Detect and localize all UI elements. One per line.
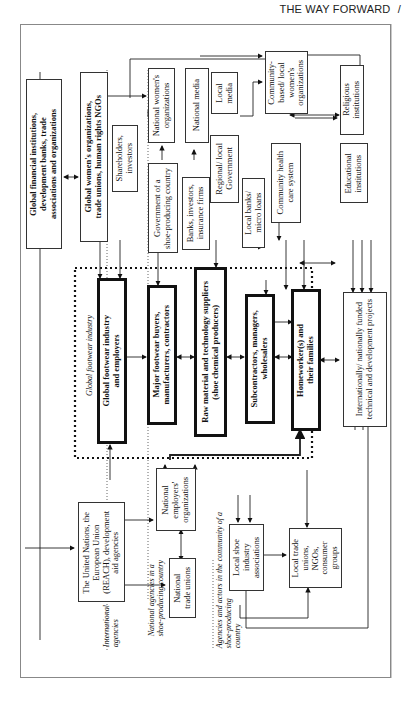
box-local-trade-unions: Local trade unions, NGOs, consumer group… bbox=[289, 528, 342, 588]
box-un-eu: The United Nations, the European Union (… bbox=[78, 502, 125, 602]
label-international-agencies: International agencies bbox=[102, 605, 120, 647]
box-subcontractors: Subcontractors, managers, wholesalers bbox=[245, 294, 275, 424]
box-religious: Religious institutions bbox=[340, 65, 364, 135]
box-educational: Educational institutions bbox=[340, 143, 368, 203]
label-community-agencies: Agencies and actors in the community of … bbox=[215, 512, 243, 648]
box-community-health: Community health care system bbox=[271, 143, 301, 223]
box-government: Government of a shoe-producing country bbox=[148, 163, 178, 253]
box-banks: Banks, investors, insurance firms bbox=[182, 177, 210, 250]
label-national-agencies: National agencies in a shoe-producing co… bbox=[147, 560, 165, 636]
box-global-footwear-industry: Global footwear industry and employers bbox=[97, 278, 127, 444]
box-major-buyers: Major footwear buyers, manufacturers, co… bbox=[147, 285, 177, 425]
box-global-financial: Global financial institutions, developme… bbox=[26, 79, 62, 249]
box-national-womens-orgs: National women's organizations bbox=[148, 68, 175, 143]
box-national-trade-unions: National trade unions bbox=[169, 558, 196, 618]
label-global-footwear-industry: Global footwear industry bbox=[85, 315, 94, 396]
box-regional-government: Regional/ local Government bbox=[210, 135, 239, 203]
box-national-employers: National employers' organizations bbox=[156, 468, 196, 531]
box-local-banks: Local banks/ micro loans bbox=[242, 178, 265, 248]
box-shareholders: Shareholders, investors bbox=[112, 125, 138, 192]
box-global-womens-orgs: Global women's organizations, trade unio… bbox=[80, 72, 108, 242]
box-national-media: National media bbox=[185, 68, 209, 143]
box-raw-material-suppliers: Raw material and technology suppliers (s… bbox=[194, 267, 227, 437]
box-intl-projects: Internationally/ nationally funded techn… bbox=[343, 292, 387, 427]
box-community-womens-orgs: Community- based/ local women's organiza… bbox=[265, 51, 308, 114]
box-local-media: Local media bbox=[211, 72, 238, 114]
box-homeworkers: Homeworker(s) and their families bbox=[291, 289, 321, 431]
